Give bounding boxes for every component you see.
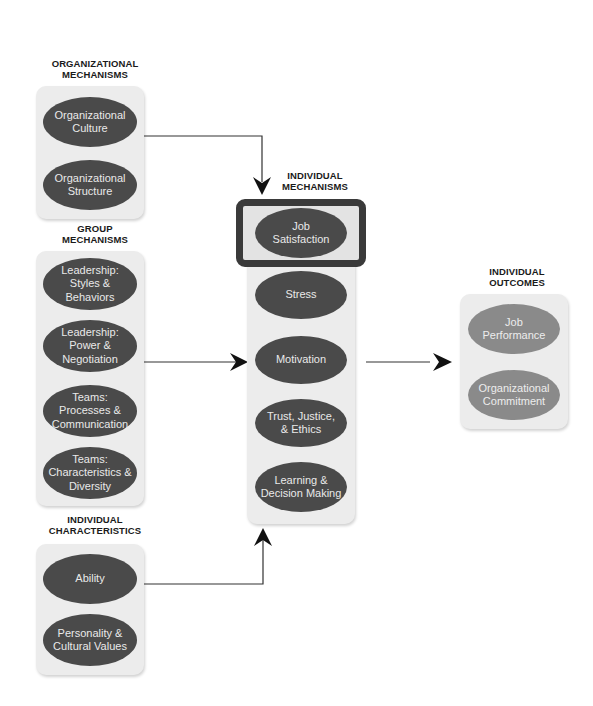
group-mechanisms-title: GROUP MECHANISMS <box>30 223 160 245</box>
oval-organizational-structure[interactable]: OrganizationalStructure <box>43 160 137 210</box>
oval-stress[interactable]: Stress <box>255 271 347 319</box>
org-to-individual-connector <box>143 136 262 182</box>
oval-organizational-culture[interactable]: OrganizationalCulture <box>43 97 137 147</box>
oval-organizational-commitment[interactable]: OrganizationalCommitment <box>468 370 560 420</box>
oval-motivation[interactable]: Motivation <box>255 336 347 384</box>
oval-ability[interactable]: Ability <box>43 554 137 604</box>
oval-teams-processes[interactable]: Teams:Processes &Communication <box>43 385 137 437</box>
characteristics-to-individual-connector <box>143 540 263 584</box>
individual-characteristics-title: INDIVIDUAL CHARACTERISTICS <box>30 514 160 536</box>
arrowhead-right-icon <box>433 353 452 371</box>
oval-leadership-styles[interactable]: Leadership:Styles &Behaviors <box>43 258 137 310</box>
oval-job-performance[interactable]: JobPerformance <box>468 304 560 354</box>
oval-leadership-power[interactable]: Leadership:Power &Negotiation <box>43 320 137 372</box>
individual-outcomes-title: INDIVIDUAL OUTCOMES <box>462 266 572 288</box>
organizational-mechanisms-title: ORGANIZATIONAL MECHANISMS <box>30 58 160 80</box>
oval-trust-justice-ethics[interactable]: Trust, Justice,& Ethics <box>255 399 347 447</box>
oval-job-satisfaction[interactable]: JobSatisfaction <box>255 208 347 258</box>
individual-mechanisms-title: INDIVIDUAL MECHANISMS <box>250 170 380 192</box>
oval-personality-cultural-values[interactable]: Personality &Cultural Values <box>43 614 137 666</box>
oval-learning-decision-making[interactable]: Learning &Decision Making <box>255 462 347 512</box>
oval-teams-characteristics[interactable]: Teams:Characteristics &Diversity <box>43 447 137 499</box>
